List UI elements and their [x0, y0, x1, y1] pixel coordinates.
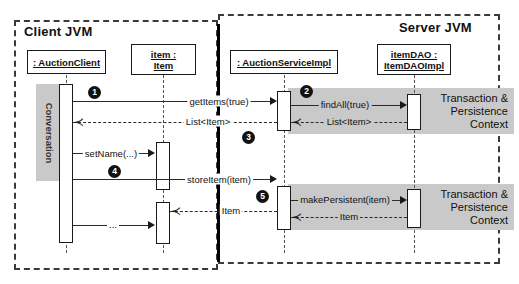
activation-item-set-name	[156, 142, 170, 190]
tx-band-2-line-1: Transaction &	[441, 188, 508, 201]
tx-band-1: Transaction & Persistence Context	[288, 88, 514, 134]
message-label-get-items: getItems(true)	[187, 96, 250, 107]
arrowhead-item-return-dao: ≺	[292, 211, 302, 223]
lifeline-box-item-dao-label-line1: itemDAO :	[391, 49, 437, 60]
activation-dao-make-persistent	[407, 189, 421, 228]
conversation-bar: Conversation	[36, 84, 61, 181]
conversation-bar-label: Conversation	[43, 102, 54, 163]
activation-service-store-item	[277, 186, 291, 230]
message-label-item-return-client: Item	[220, 205, 242, 216]
tx-band-2: Transaction & Persistence Context	[288, 184, 514, 230]
tx-band-1-line-2: Persistence	[441, 105, 508, 118]
arrowhead-item-return-client: ≺	[171, 205, 181, 217]
message-label-list-item-dao: List<Item>	[325, 116, 373, 127]
arrowhead-set-name	[148, 149, 155, 157]
jvm-separator	[217, 24, 220, 262]
message-label-store-item: storeItem(item)	[185, 174, 253, 185]
activation-item-return	[156, 202, 170, 244]
arrowhead-list-item-dao: ≺	[292, 116, 302, 128]
arrowhead-find-all	[400, 101, 407, 109]
arrowhead-make-persistent	[400, 196, 407, 204]
activation-dao-find-all	[407, 94, 421, 130]
arrowhead-store-item	[270, 175, 277, 183]
lifeline-box-auction-service-impl[interactable]: : AuctionServiceImpl	[230, 50, 338, 74]
arrowhead-list-item-client: ≺	[74, 116, 84, 128]
tx-band-2-line-2: Persistence	[441, 201, 508, 214]
message-label-list-item-client: List<Item>	[184, 116, 232, 127]
step-marker-4: 4	[108, 165, 121, 178]
sequence-diagram-canvas: Client JVM Server JVM Transaction & Pers…	[0, 0, 519, 284]
arrowhead-get-items	[270, 97, 277, 105]
arrowhead-ellipsis	[148, 221, 155, 229]
tx-band-2-line-3: Context	[441, 214, 508, 227]
message-label-item-return-dao: Item	[338, 211, 360, 222]
lifeline-box-auction-client[interactable]: : AuctionClient	[27, 50, 106, 74]
lifeline-box-item-label-line2: Item	[154, 60, 174, 71]
step-marker-5: 5	[256, 190, 269, 203]
message-line-list-item-client	[73, 122, 277, 123]
lifeline-box-item-label-line1: item :	[151, 49, 176, 60]
tx-band-1-line-3: Context	[441, 118, 508, 131]
activation-service-get-items	[277, 91, 291, 131]
lifeline-box-item[interactable]: item : Item	[131, 44, 196, 75]
lifeline-box-auction-service-impl-label: : AuctionServiceImpl	[237, 57, 331, 68]
tx-band-1-line-1: Transaction &	[441, 92, 508, 105]
lifeline-box-item-dao-label-line2: ItemDAOImpl	[384, 60, 444, 71]
lifeline-box-item-dao[interactable]: itemDAO : ItemDAOImpl	[377, 44, 451, 75]
message-label-find-all: findAll(true)	[319, 99, 372, 110]
server-jvm-title: Server JVM	[399, 20, 472, 35]
tx-band-2-label: Transaction & Persistence Context	[441, 188, 508, 227]
message-label-ellipsis: ...	[107, 219, 119, 230]
lifeline-box-auction-client-label: : AuctionClient	[33, 57, 100, 68]
step-marker-2: 2	[300, 85, 313, 98]
step-marker-3: 3	[242, 131, 255, 144]
step-marker-1: 1	[88, 86, 101, 99]
message-label-set-name: setName(...)	[83, 148, 139, 159]
tx-band-1-label: Transaction & Persistence Context	[441, 92, 508, 131]
message-label-make-persistent: makePersistent(item)	[298, 194, 392, 205]
activation-auction-client	[59, 84, 73, 243]
client-jvm-title: Client JVM	[24, 24, 92, 39]
